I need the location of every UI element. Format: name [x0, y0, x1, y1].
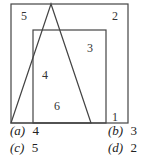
option-a[interactable]: (a) 4: [10, 124, 39, 138]
option-c-key: (c): [10, 140, 24, 155]
option-d-key: (d): [108, 140, 123, 155]
option-b-key: (b): [108, 123, 123, 138]
option-c[interactable]: (c) 5: [10, 141, 38, 155]
option-d-value: 2: [130, 140, 137, 155]
option-b[interactable]: (b) 3: [108, 124, 137, 138]
option-c-value: 5: [32, 140, 39, 155]
answer-options: (a) 4 (b) 3 (c) 5 (d) 2: [0, 0, 141, 156]
option-a-value: 4: [32, 123, 39, 138]
option-d[interactable]: (d) 2: [108, 141, 137, 155]
option-a-key: (a): [10, 123, 25, 138]
option-b-value: 3: [130, 123, 137, 138]
